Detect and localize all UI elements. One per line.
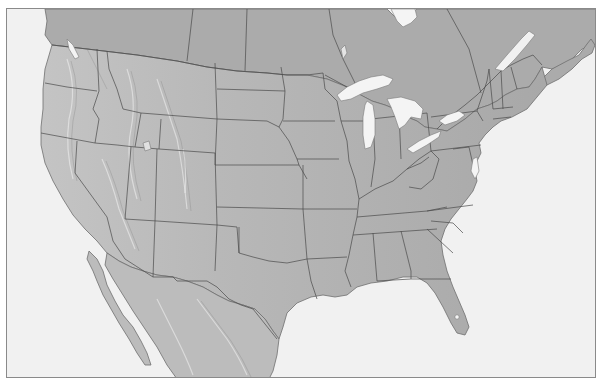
lake-okeechobee: [455, 315, 459, 319]
relief-map: [7, 9, 596, 378]
map-frame: [6, 8, 596, 378]
